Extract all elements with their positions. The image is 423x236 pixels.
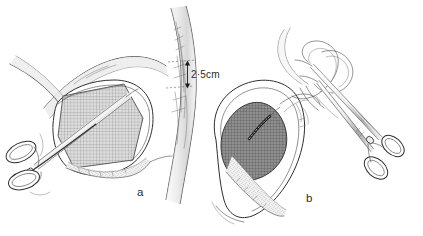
dimension-label: 2·5cm: [191, 69, 220, 80]
panel-b-label: b: [306, 192, 312, 204]
figure-root: 2·5cm: [0, 0, 423, 236]
surgical-illustration: 2·5cm: [0, 0, 423, 236]
panel-a-label: a: [137, 186, 144, 198]
